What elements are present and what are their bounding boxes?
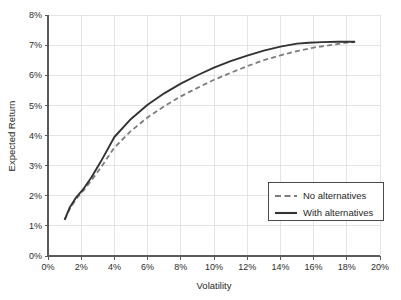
y-tick-label: 7% — [29, 40, 42, 50]
y-axis-tick-labels: 0%1%2%3%4%5%6%7%8% — [29, 10, 42, 261]
chart-legend: No alternativesWith alternatives — [269, 183, 384, 221]
x-tick-label: 12% — [238, 262, 256, 272]
y-tick-label: 4% — [29, 131, 42, 141]
x-tick-label: 16% — [305, 262, 323, 272]
x-tick-label: 8% — [174, 262, 187, 272]
x-axis-title: Volatility — [197, 280, 232, 291]
y-tick-label: 2% — [29, 191, 42, 201]
x-tick-label: 0% — [41, 262, 54, 272]
x-tick-label: 10% — [205, 262, 223, 272]
y-axis-title: Expected Return — [6, 101, 17, 172]
chart-plot: 0%2%4%6%8%10%12%14%16%18%20% 0%1%2%3%4%5… — [0, 0, 401, 300]
legend-label: No alternatives — [303, 190, 367, 201]
y-tick-label: 5% — [29, 101, 42, 111]
x-tick-label: 20% — [371, 262, 389, 272]
tick-marks — [45, 15, 381, 260]
y-tick-label: 0% — [29, 251, 42, 261]
x-tick-label: 4% — [108, 262, 121, 272]
x-tick-label: 14% — [271, 262, 289, 272]
legend-label: With alternatives — [303, 207, 373, 218]
x-tick-label: 2% — [75, 262, 88, 272]
chart-container: 0%2%4%6%8%10%12%14%16%18%20% 0%1%2%3%4%5… — [0, 0, 401, 300]
x-tick-label: 6% — [141, 262, 154, 272]
y-tick-label: 8% — [29, 10, 42, 20]
y-tick-label: 1% — [29, 221, 42, 231]
y-tick-label: 3% — [29, 161, 42, 171]
y-tick-label: 6% — [29, 70, 42, 80]
x-tick-label: 18% — [338, 262, 356, 272]
x-axis-tick-labels: 0%2%4%6%8%10%12%14%16%18%20% — [41, 262, 389, 272]
